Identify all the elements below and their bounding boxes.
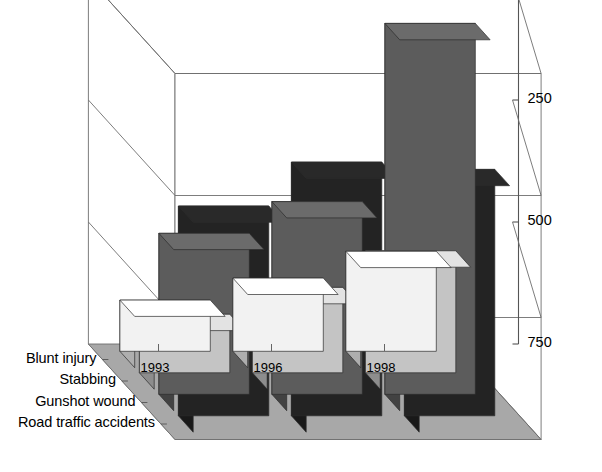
bar-top-face: [159, 233, 264, 249]
bar-top-face: [272, 202, 377, 218]
bar-top-face: [233, 278, 338, 294]
bar-top-face: [346, 251, 451, 267]
series-label-2: Stabbing: [60, 371, 116, 387]
series-label-0: Road traffic accidents: [18, 414, 155, 430]
x-axis-tick-label-1: 1996: [253, 360, 282, 375]
series-label-1: Gunshot wound: [35, 393, 135, 409]
bar-top-face: [385, 23, 490, 39]
ytick-connector-750: [513, 0, 542, 74]
x-axis-tick-label-0: 1993: [140, 360, 169, 375]
bar-top-face: [291, 162, 396, 178]
series-label-3: Blunt injury: [26, 350, 97, 366]
y-axis-tick-label: 750: [528, 334, 552, 350]
bar-top-face: [120, 300, 225, 316]
bar-top-face: [178, 206, 283, 222]
x-axis-tick-label-2: 1998: [366, 360, 395, 375]
bar-chart-3d: 7505002500Road traffic accidentsGunshot …: [0, 0, 602, 472]
y-axis-tick-label: 250: [528, 90, 552, 106]
y-axis-tick-label: 500: [528, 212, 552, 228]
